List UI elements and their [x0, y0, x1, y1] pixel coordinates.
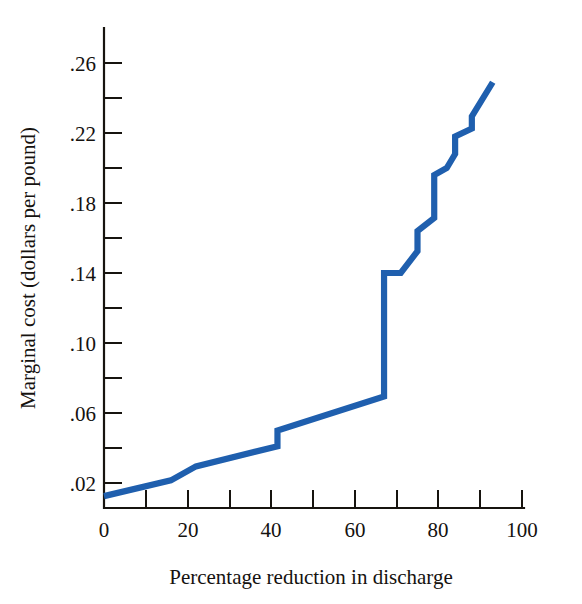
y-tick-label: .02	[70, 472, 96, 496]
y-tick-label: .26	[70, 52, 96, 76]
y-axis-title: Marginal cost (dollars per pound)	[16, 127, 40, 409]
y-tick-label: .22	[70, 122, 96, 146]
x-axis-title: Percentage reduction in discharge	[169, 565, 453, 589]
x-tick-label: 40	[261, 518, 282, 542]
chart-background	[0, 0, 582, 604]
y-tick-label: .14	[70, 262, 97, 286]
x-tick-label: 0	[99, 518, 110, 542]
x-tick-label: 80	[428, 518, 449, 542]
x-tick-label: 100	[506, 518, 538, 542]
chart-canvas: .26 .22 .18 .14 .10 .06 .02 0 20 40 60 8…	[0, 0, 582, 604]
x-tick-label: 60	[345, 518, 366, 542]
x-tick-label: 20	[178, 518, 199, 542]
y-tick-label: .06	[70, 402, 96, 426]
chart-figure: .26 .22 .18 .14 .10 .06 .02 0 20 40 60 8…	[0, 0, 582, 604]
y-tick-label: .10	[70, 332, 96, 356]
y-tick-label: .18	[70, 192, 96, 216]
